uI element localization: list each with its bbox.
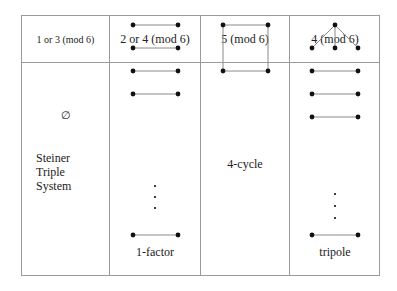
- decomposition-table: 1 or 3 (mod 6) 2 or 4 (mod 6) 5 (mod 6) …: [21, 15, 380, 276]
- tripole-vertices: [310, 23, 361, 238]
- one-factor-graph: [133, 25, 178, 235]
- tripole-graph: [312, 25, 358, 235]
- four-cycle-graph: [223, 25, 268, 71]
- one-factor-vertices: [131, 23, 181, 238]
- graph-drawings: [22, 16, 381, 277]
- four-cycle-vertices: [221, 23, 271, 74]
